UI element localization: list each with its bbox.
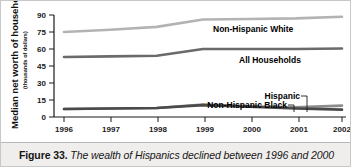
series-label-non-hispanic-white: Non-Hispanic White [213, 24, 294, 34]
y-tick-marks [49, 15, 54, 117]
x-tick-2001: 2001 [290, 125, 308, 134]
series-line-non-hispanic-black [64, 105, 342, 110]
series-label-all-households: All Households [239, 55, 301, 65]
y-tick-15: 15 [37, 96, 46, 105]
x-tick-1996: 1996 [55, 125, 73, 134]
x-tick-1998: 1998 [149, 125, 167, 134]
line-chart: Median net worth of households (thousand… [1, 1, 351, 143]
y-tick-0: 0 [42, 113, 47, 122]
figure-caption-body: The wealth of Hispanics declined between… [70, 149, 334, 161]
y-axis-subtitle: (thousands of dollars) [22, 31, 28, 89]
y-axis-title: Median net worth of households [9, 1, 20, 129]
figure-caption-bar: Figure 33. The wealth of Hispanics decli… [1, 142, 351, 166]
x-tick-1999: 1999 [196, 125, 214, 134]
y-tick-90: 90 [37, 11, 46, 20]
series-label-non-hispanic-black: Non-Hispanic Black [207, 100, 287, 110]
x-tick-2002: 2002 [333, 125, 351, 134]
x-tick-2000: 2000 [243, 125, 261, 134]
series-line-non-hispanic-white [64, 17, 342, 32]
y-tick-75: 75 [37, 28, 46, 37]
y-tick-45: 45 [37, 62, 46, 71]
y-tick-60: 60 [37, 45, 46, 54]
x-tick-1997: 1997 [102, 125, 120, 134]
figure-caption-label: Figure 33. [19, 149, 68, 161]
y-tick-30: 30 [37, 79, 46, 88]
x-tick-marks [64, 117, 342, 122]
chart-plot-area: Median net worth of households (thousand… [1, 1, 351, 143]
figure-container: Median net worth of households (thousand… [0, 0, 351, 167]
figure-caption: Figure 33. The wealth of Hispanics decli… [19, 149, 334, 161]
